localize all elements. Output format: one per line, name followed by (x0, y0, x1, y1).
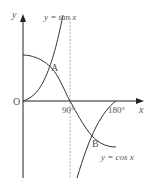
tan-curve-branch-1 (23, 15, 63, 101)
x-axis-label: x (138, 104, 144, 115)
tan-curve-label: y = tan x (43, 12, 76, 22)
cos-curve-label: y = cos x (100, 152, 134, 162)
origin-label: O (13, 96, 20, 107)
y-axis-arrow-icon (20, 14, 26, 22)
point-a-label: A (51, 62, 59, 73)
trig-graph: y x O 90° 180° y = tan x y = cos x A B (0, 0, 148, 185)
point-b-label: B (92, 138, 99, 149)
y-axis-label: y (11, 9, 17, 20)
tick-180: 180° (108, 105, 126, 115)
tick-90: 90° (62, 105, 75, 115)
